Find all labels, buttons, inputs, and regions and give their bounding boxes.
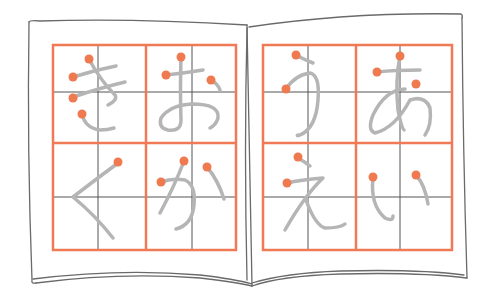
character-e: [285, 158, 345, 230]
stroke-start-dots: [69, 51, 421, 188]
start-dot: [282, 85, 291, 94]
start-dot: [207, 76, 216, 85]
notebook-illustration: [0, 0, 495, 306]
start-dot: [412, 80, 421, 89]
start-dot: [294, 153, 303, 162]
character-ki: [73, 59, 125, 130]
notebook-svg: [0, 0, 495, 306]
start-dot: [396, 52, 405, 61]
start-dot: [78, 110, 87, 119]
start-dot: [162, 71, 171, 80]
start-dot: [114, 158, 123, 167]
start-dot: [69, 94, 78, 103]
start-dot: [180, 157, 189, 166]
character-strokes: [73, 55, 430, 238]
start-dot: [85, 55, 94, 64]
start-dot: [283, 179, 292, 188]
start-dot: [203, 163, 212, 172]
character-ku: [73, 163, 118, 238]
character-o: [160, 57, 220, 130]
start-dot: [157, 178, 166, 187]
start-dot: [373, 68, 382, 77]
character-u: [286, 55, 318, 136]
start-dot: [177, 53, 186, 62]
start-dot: [369, 173, 378, 182]
start-dot: [69, 73, 78, 82]
start-dot: [292, 51, 301, 60]
start-dot: [412, 171, 421, 180]
